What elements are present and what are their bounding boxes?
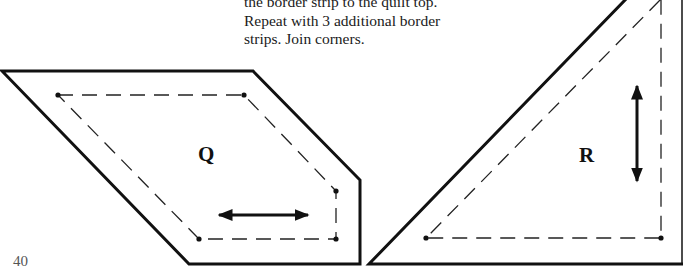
template-q-label: Q xyxy=(198,142,214,167)
template-r xyxy=(369,0,683,264)
template-r-label: R xyxy=(579,143,594,168)
template-q-seam-line xyxy=(58,95,336,239)
template-r-seam-line xyxy=(426,0,661,238)
template-q xyxy=(2,71,360,264)
quilt-templates-illustration xyxy=(0,0,683,273)
template-q-cut-line xyxy=(2,71,360,264)
page-number: 40 xyxy=(13,253,28,270)
